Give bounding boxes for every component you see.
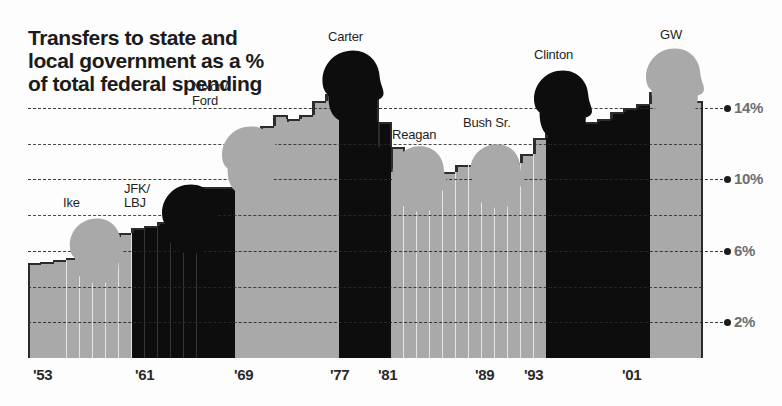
president-name-label: GW — [660, 28, 682, 42]
chart-title: Transfers to state and local government … — [28, 26, 268, 95]
chart-canvas: 14%10%6%2%'53'61'69'77'81'89'93'01 Trans… — [0, 0, 782, 406]
